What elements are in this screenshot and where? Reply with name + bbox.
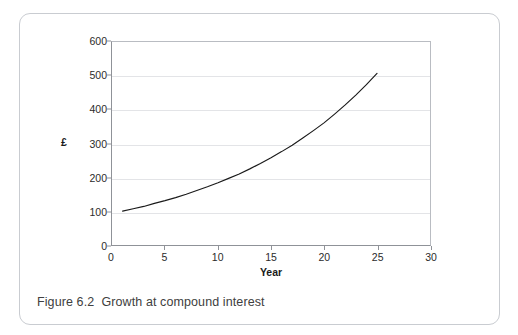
x-tick-label-10: 10	[203, 252, 233, 263]
y-tick-label-400: 400	[73, 104, 107, 115]
y-tick-label-500: 500	[73, 70, 107, 81]
x-tick-mark-25	[378, 246, 379, 250]
figure-caption: Figure 6.2 Growth at compound interest	[37, 295, 265, 309]
x-tick-mark-10	[218, 246, 219, 250]
x-tick-label-25: 25	[363, 252, 393, 263]
x-tick-label-20: 20	[309, 252, 339, 263]
x-tick-label-0: 0	[96, 252, 126, 263]
plot-frame	[111, 41, 431, 246]
figure-root: £ 0100200300400500600 051015202530 Year …	[0, 0, 518, 335]
figure-card: £ 0100200300400500600 051015202530 Year …	[19, 13, 500, 325]
series-line-compound-interest	[112, 42, 430, 245]
x-tick-label-30: 30	[416, 252, 446, 263]
chart-area: £ 0100200300400500600 051015202530 Year	[20, 14, 501, 284]
x-axis-title: Year	[111, 266, 431, 278]
y-tick-label-600: 600	[73, 36, 107, 47]
x-tick-mark-20	[324, 246, 325, 250]
y-tick-label-0: 0	[73, 241, 107, 252]
y-axis-title: £	[61, 136, 67, 148]
y-tick-label-200: 200	[73, 172, 107, 183]
y-axis-tick-labels: 0100200300400500600	[69, 41, 107, 246]
x-tick-label-15: 15	[256, 252, 286, 263]
x-tick-label-5: 5	[149, 252, 179, 263]
x-tick-mark-30	[431, 246, 432, 250]
y-tick-label-100: 100	[73, 207, 107, 218]
y-tick-label-300: 300	[73, 138, 107, 149]
x-tick-mark-15	[271, 246, 272, 250]
x-tick-mark-5	[164, 246, 165, 250]
